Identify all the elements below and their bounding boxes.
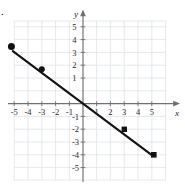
graph-figure: -5 -4 -3 -2 -1 1 2 3 4 5 5 4 3 2 1 -1 -2…: [0, 0, 185, 186]
x-tick-label: -2: [52, 107, 59, 117]
grid-lines: [14, 21, 165, 180]
y-tick-label: -4: [72, 150, 80, 160]
axis-lines: [8, 14, 176, 183]
x-tick-label: -5: [11, 107, 18, 117]
y-tick-label: -1: [72, 112, 79, 122]
data-point: [122, 127, 127, 132]
y-tick-label: 1: [72, 73, 76, 83]
item-bullet-marker: .: [1, 5, 4, 17]
y-tick-label: 5: [72, 22, 76, 32]
y-axis-label: y: [73, 9, 78, 19]
x-tick-label: 3: [122, 107, 126, 117]
x-axis-label: x: [174, 108, 179, 118]
y-tick-label: 4: [72, 35, 77, 45]
data-point: [8, 43, 15, 50]
y-tick-label: -3: [72, 137, 79, 147]
data-points: [8, 43, 157, 158]
y-tick-label: 2: [72, 60, 76, 70]
x-tick-label: -4: [24, 107, 32, 117]
coordinate-plane-svg: -5 -4 -3 -2 -1 1 2 3 4 5 5 4 3 2 1 -1 -2…: [0, 0, 185, 186]
y-tick-label: 3: [72, 48, 76, 58]
axis-arrowheads: [80, 10, 180, 107]
x-tick-label: 5: [150, 107, 154, 117]
data-point: [39, 66, 45, 72]
x-tick-label: 1: [94, 107, 98, 117]
x-tick-labels: -5 -4 -3 -2 -1 1 2 3 4 5: [11, 107, 154, 117]
x-tick-label: 4: [136, 107, 141, 117]
y-axis-arrow: [80, 10, 86, 17]
x-axis-arrow: [173, 101, 180, 107]
y-tick-label: -5: [72, 163, 79, 173]
x-tick-label: 2: [108, 107, 112, 117]
x-tick-label: -3: [38, 107, 45, 117]
y-tick-label: -2: [72, 124, 79, 134]
data-point: [151, 152, 157, 158]
